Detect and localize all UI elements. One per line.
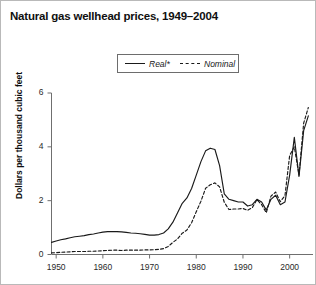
plot-area bbox=[1, 1, 316, 285]
axis-lines bbox=[52, 93, 314, 255]
data-series-layer bbox=[52, 108, 309, 253]
x-tick-label: 1980 bbox=[179, 262, 213, 272]
y-tick-label: 6 bbox=[30, 87, 44, 97]
series-line-real bbox=[52, 116, 309, 243]
x-axis-ticks bbox=[56, 255, 289, 259]
chart-figure: Natural gas wellhead prices, 1949–2004 R… bbox=[0, 0, 316, 285]
y-tick-label: 0 bbox=[30, 249, 44, 259]
y-tick-label: 2 bbox=[30, 195, 44, 205]
y-tick-label: 4 bbox=[30, 141, 44, 151]
series-line-nominal bbox=[52, 108, 309, 253]
x-tick-label: 1950 bbox=[39, 262, 73, 272]
x-tick-label: 2000 bbox=[273, 262, 307, 272]
x-tick-label: 1990 bbox=[226, 262, 260, 272]
x-tick-label: 1970 bbox=[133, 262, 167, 272]
y-axis-ticks bbox=[48, 93, 52, 255]
x-tick-label: 1960 bbox=[86, 262, 120, 272]
